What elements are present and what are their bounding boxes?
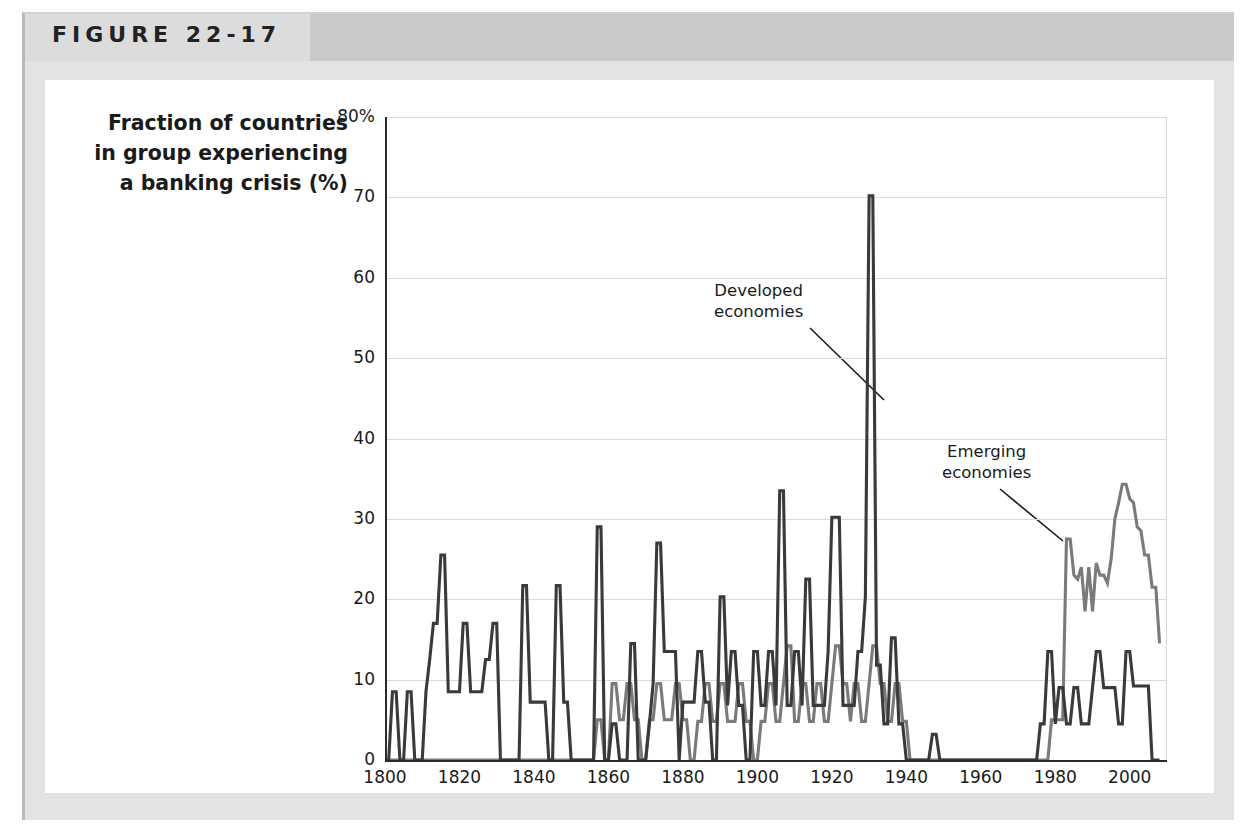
y-tick-label-0: 0 xyxy=(323,749,375,769)
y-axis-title: Fraction of countries in group experienc… xyxy=(58,108,348,198)
y-tick-label-50: 50 xyxy=(323,347,375,367)
y-axis-title-line2: in group experiencing xyxy=(58,138,348,168)
y-tick-label-40: 40 xyxy=(323,428,375,448)
x-tick-label-1840: 1840 xyxy=(512,767,555,787)
series-line-developed xyxy=(385,196,1160,760)
y-axis-line xyxy=(385,117,387,761)
series-lines-group xyxy=(385,117,1167,761)
y-axis-title-line1: Fraction of countries xyxy=(58,108,348,138)
x-tick-label-1800: 1800 xyxy=(363,767,406,787)
figure-number-label: FIGURE 22-17 xyxy=(52,22,281,47)
x-axis-line xyxy=(385,760,1167,762)
figure-root: FIGURE 22-17 Fraction of countries in gr… xyxy=(0,0,1247,834)
y-tick-label-60: 60 xyxy=(323,267,375,287)
y-tick-label-20: 20 xyxy=(323,588,375,608)
x-tick-label-1980: 1980 xyxy=(1034,767,1077,787)
x-tick-label-2000: 2000 xyxy=(1108,767,1151,787)
y-tick-label-80: 80% xyxy=(323,106,375,126)
y-tick-label-30: 30 xyxy=(323,508,375,528)
x-tick-label-1920: 1920 xyxy=(810,767,853,787)
x-tick-label-1880: 1880 xyxy=(661,767,704,787)
y-tick-label-70: 70 xyxy=(323,186,375,206)
y-axis-title-line3: a banking crisis (%) xyxy=(58,168,348,198)
x-tick-label-1940: 1940 xyxy=(885,767,928,787)
plot-area: 80%706050403020100 180018201840186018801… xyxy=(385,117,1167,760)
x-tick-label-1820: 1820 xyxy=(438,767,481,787)
x-tick-label-1960: 1960 xyxy=(959,767,1002,787)
x-tick-label-1900: 1900 xyxy=(736,767,779,787)
x-tick-label-1860: 1860 xyxy=(587,767,630,787)
y-tick-label-10: 10 xyxy=(323,669,375,689)
